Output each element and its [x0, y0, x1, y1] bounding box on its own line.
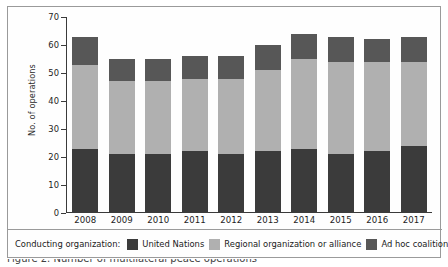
x-tick-label-2014: 2014	[284, 215, 324, 225]
bar-segment	[182, 79, 208, 152]
bar-segment	[145, 81, 171, 154]
bar-group-2016	[364, 39, 390, 213]
bar-segment	[401, 146, 427, 213]
bar-group-2015	[328, 37, 354, 213]
bar-segment	[218, 154, 244, 213]
legend-item-2[interactable]: Ad hoc coalition	[366, 239, 448, 250]
figure-caption-clipped: Figure 2. Number of multilateral peace o…	[7, 259, 441, 267]
bar-segment	[364, 151, 390, 213]
legend-item-label: Ad hoc coalition	[381, 239, 448, 249]
x-tick-label-2016: 2016	[357, 215, 397, 225]
bar-segment	[291, 149, 317, 213]
x-tick-label-2011: 2011	[175, 215, 215, 225]
bar-segment	[328, 154, 354, 213]
y-tick-label-70: 70	[37, 13, 59, 21]
bar-segment	[364, 62, 390, 152]
bar-segment	[109, 154, 135, 213]
bar-group-2014	[291, 34, 317, 213]
bars-layer	[67, 17, 432, 213]
bar-group-2017	[401, 37, 427, 213]
bar-group-2009	[109, 59, 135, 213]
x-tick-label-2013: 2013	[248, 215, 288, 225]
bar-segment	[328, 62, 354, 154]
x-tick-label-2010: 2010	[138, 215, 178, 225]
bar-group-2013	[255, 45, 281, 213]
legend-swatch-icon	[366, 239, 377, 250]
legend-swatch-icon	[127, 239, 138, 250]
x-tick-label-2017: 2017	[394, 215, 434, 225]
bar-segment	[145, 59, 171, 81]
legend-item-1[interactable]: Regional organization or alliance	[209, 239, 361, 250]
x-tick-label-2009: 2009	[102, 215, 142, 225]
x-tick-label-2012: 2012	[211, 215, 251, 225]
y-tick-label-10: 10	[37, 181, 59, 189]
y-tick-label-30: 30	[37, 125, 59, 133]
legend-title: Conducting organization:	[15, 239, 120, 249]
bar-segment	[328, 37, 354, 62]
bar-group-2011	[182, 56, 208, 213]
x-tick-label-2008: 2008	[65, 215, 105, 225]
bar-group-2012	[218, 56, 244, 213]
bar-segment	[109, 59, 135, 81]
bar-segment	[401, 37, 427, 62]
bar-segment	[291, 34, 317, 59]
bar-segment	[255, 70, 281, 151]
figure-caption-text: Figure 2. Number of multilateral peace o…	[7, 259, 257, 264]
bar-segment	[218, 56, 244, 78]
chart-legend: Conducting organization: United NationsR…	[8, 230, 442, 258]
legend-item-label: Regional organization or alliance	[224, 239, 361, 249]
bar-segment	[72, 37, 98, 65]
chart-plot-area: No. of operations 010203040506070 200820…	[8, 7, 442, 225]
bar-segment	[218, 79, 244, 155]
bar-segment	[182, 56, 208, 78]
figure-frame: No. of operations 010203040506070 200820…	[7, 6, 441, 258]
bar-segment	[291, 59, 317, 149]
bar-segment	[145, 154, 171, 213]
bar-segment	[72, 65, 98, 149]
y-axis-title: No. of operations	[27, 40, 37, 160]
legend-item-0[interactable]: United Nations	[127, 239, 204, 250]
screenshot-root: No. of operations 010203040506070 200820…	[0, 0, 448, 267]
y-axis-tick-labels: 010203040506070	[37, 7, 59, 225]
legend-item-label: United Nations	[142, 239, 204, 249]
bar-group-2008	[72, 37, 98, 213]
bar-segment	[255, 45, 281, 70]
y-tick-label-20: 20	[37, 153, 59, 161]
legend-swatch-icon	[209, 239, 220, 250]
bar-segment	[401, 62, 427, 146]
bar-segment	[255, 151, 281, 213]
bar-segment	[182, 151, 208, 213]
y-tick-label-50: 50	[37, 69, 59, 77]
y-tick-label-0: 0	[37, 209, 59, 217]
x-tick-label-2015: 2015	[321, 215, 361, 225]
y-tick-label-40: 40	[37, 97, 59, 105]
bar-group-2010	[145, 59, 171, 213]
bar-segment	[364, 39, 390, 61]
x-axis-tick-labels: 2008200920102011201220132014201520162017	[67, 215, 432, 229]
bar-segment	[109, 81, 135, 154]
y-tick-mark-0	[61, 213, 66, 214]
y-tick-label-60: 60	[37, 41, 59, 49]
bar-segment	[72, 149, 98, 213]
